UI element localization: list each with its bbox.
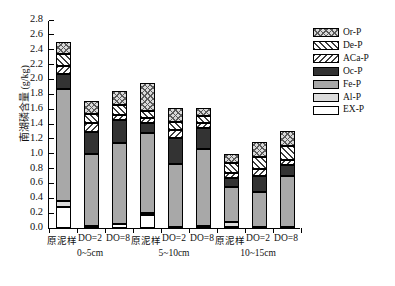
bar-segment-oc-p — [140, 123, 155, 133]
x-tick-mark — [189, 228, 190, 233]
bar-segment-fe-p — [140, 133, 155, 213]
x-tick-mark — [245, 228, 246, 233]
legend-label: ACa-P — [343, 54, 369, 64]
bar-segment-aca-p — [56, 66, 71, 74]
bar-segment-oc-p — [168, 138, 183, 164]
x-axis-category-label: DO=2 — [246, 233, 270, 243]
bar-segment-ex-p — [140, 215, 155, 228]
x-axis-category-label: DO=2 — [162, 233, 186, 243]
bar-segment-oc-p — [224, 178, 239, 188]
y-tick-mark — [49, 124, 54, 125]
bar-segment-de-p — [224, 163, 239, 173]
y-tick-mark — [49, 138, 54, 139]
legend-label: De-P — [343, 41, 363, 51]
y-axis-label: 南湖磷含量 (g/kg) — [16, 29, 31, 179]
legend-swatch-aca-p — [313, 54, 339, 63]
x-tick-mark — [217, 228, 218, 233]
bar-segment-fe-p — [84, 154, 99, 225]
x-axis-group-label: 10~15cm — [240, 248, 276, 258]
y-tick-label: 1.4 — [30, 117, 43, 128]
y-tick-label: 1.2 — [30, 132, 43, 143]
x-tick-mark — [49, 228, 50, 233]
y-tick-label: 2.0 — [30, 72, 43, 83]
y-tick-label: 2.8 — [30, 13, 43, 24]
bar-segment-al-p — [56, 201, 71, 207]
bar-segment-aca-p — [84, 123, 99, 133]
legend-swatch-de-p — [313, 41, 339, 50]
stacked-bar — [140, 83, 155, 228]
legend-item: ACa-P — [313, 53, 369, 65]
bar-segment-or-p — [84, 101, 99, 114]
bar-segment-or-p — [280, 131, 295, 147]
y-tick-mark — [49, 198, 54, 199]
legend-label: EX-P — [343, 105, 364, 115]
legend-label: Fe-P — [343, 80, 361, 90]
legend-swatch-or-p — [313, 28, 339, 37]
y-tick-label: 2.4 — [30, 43, 43, 54]
x-axis-category-label: DO=8 — [274, 233, 298, 243]
y-tick-mark — [49, 168, 54, 169]
y-tick-mark — [49, 183, 54, 184]
bar-segment-oc-p — [56, 74, 71, 89]
bar-segment-or-p — [252, 142, 267, 157]
y-tick-label: 2.6 — [30, 28, 43, 39]
legend-item: Oc-P — [313, 66, 369, 78]
bar-segment-al-p — [224, 222, 239, 226]
y-tick-label: 1.8 — [30, 87, 43, 98]
x-axis-category-label: 原泥样 — [47, 233, 77, 247]
x-axis-group-labels: 0~5cm5~10cm10~15cm — [48, 248, 300, 264]
bar-segment-or-p — [56, 42, 71, 55]
bar-segment-aca-p — [196, 123, 211, 128]
bar-series-container — [49, 21, 300, 228]
bar-segment-ex-p — [56, 207, 71, 228]
y-tick-mark — [49, 213, 54, 214]
legend-swatch-al-p — [313, 93, 339, 102]
y-tick-label: 1.6 — [30, 102, 43, 113]
y-tick-mark — [49, 153, 54, 154]
stacked-bar — [84, 101, 99, 228]
bar-segment-ex-p — [112, 224, 127, 228]
y-tick-mark — [49, 20, 54, 21]
bar-segment-oc-p — [112, 120, 127, 143]
bar-segment-fe-p — [56, 89, 71, 201]
bar-segment-de-p — [112, 105, 127, 115]
x-tick-mark — [133, 228, 134, 233]
bar-segment-de-p — [84, 114, 99, 123]
bar-segment-de-p — [140, 111, 155, 118]
y-tick-mark — [49, 94, 54, 95]
legend-item: Or-P — [313, 27, 369, 39]
bar-segment-oc-p — [84, 132, 99, 154]
x-tick-mark — [161, 228, 162, 233]
bar-segment-oc-p — [280, 165, 295, 176]
legend-item: Al-P — [313, 91, 369, 103]
legend-label: Al-P — [343, 93, 361, 103]
x-tick-mark — [105, 228, 106, 233]
x-axis-category-label: DO=8 — [190, 233, 214, 243]
legend-swatch-fe-p — [313, 80, 339, 89]
y-tick-mark — [49, 49, 54, 50]
bar-segment-or-p — [224, 154, 239, 163]
bar-segment-fe-p — [280, 176, 295, 227]
stacked-bar — [280, 131, 295, 228]
y-tick-mark — [49, 34, 54, 35]
bar-segment-de-p — [252, 157, 267, 169]
legend-swatch-oc-p — [313, 67, 339, 76]
y-tick-label: 0.8 — [30, 162, 43, 173]
legend-item: EX-P — [313, 104, 369, 116]
y-tick-mark — [49, 79, 54, 80]
bar-segment-aca-p — [112, 115, 127, 120]
x-axis-category-labels: 原泥样DO=2DO=8原泥样DO=2DO=8原泥样DO=2DO=8 — [48, 233, 300, 249]
stacked-bar — [112, 91, 127, 228]
bar-segment-fe-p — [224, 187, 239, 222]
x-axis-category-label: 原泥样 — [131, 233, 161, 247]
y-tick-label: 1.0 — [30, 147, 43, 158]
legend-item: Fe-P — [313, 79, 369, 91]
bar-segment-fe-p — [252, 192, 267, 227]
x-axis-category-label: 原泥样 — [215, 233, 245, 247]
bar-segment-fe-p — [112, 143, 127, 224]
stacked-bar — [196, 108, 211, 228]
bar-segment-or-p — [140, 83, 155, 110]
bar-segment-fe-p — [168, 164, 183, 226]
plot-area: 0.00.20.40.60.81.01.21.41.61.82.02.22.42… — [48, 21, 300, 229]
bar-segment-fe-p — [196, 149, 211, 226]
